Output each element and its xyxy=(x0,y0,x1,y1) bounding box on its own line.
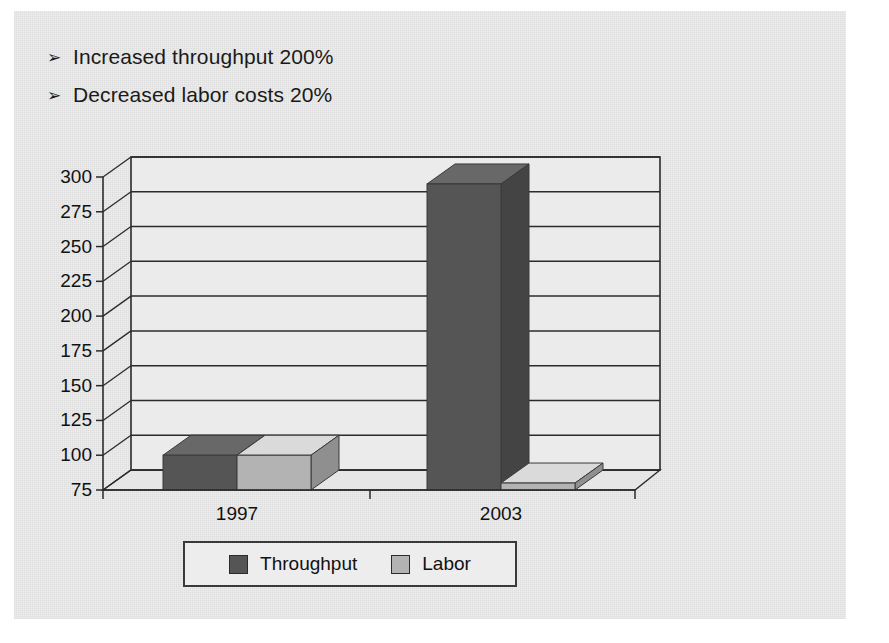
x-axis-tick-label: 1997 xyxy=(216,503,258,525)
legend-item-throughput: Throughput xyxy=(229,553,357,575)
y-axis-tick-label: 75 xyxy=(28,479,92,501)
x-axis-tick-label: 2003 xyxy=(480,503,522,525)
y-axis-tick-label: 300 xyxy=(28,166,92,188)
y-axis-tick-label: 125 xyxy=(28,409,92,431)
legend-swatch-labor xyxy=(391,555,410,574)
y-axis-tick-label: 225 xyxy=(28,270,92,292)
plot-area xyxy=(96,157,660,490)
legend-item-labor: Labor xyxy=(391,553,471,575)
y-axis-tick-label: 150 xyxy=(28,375,92,397)
slide-canvas: ➢ Increased throughput 200% ➢ Decreased … xyxy=(0,0,889,643)
y-axis-tick-label: 250 xyxy=(28,236,92,258)
legend-label-labor: Labor xyxy=(422,553,471,575)
legend-label-throughput: Throughput xyxy=(260,553,357,575)
y-axis-tick-label: 175 xyxy=(28,340,92,362)
chart-legend: Throughput Labor xyxy=(183,541,517,587)
y-axis-tick-label: 275 xyxy=(28,201,92,223)
axis-layer xyxy=(103,490,635,499)
legend-swatch-throughput xyxy=(229,555,248,574)
bar-2003-throughput xyxy=(427,164,529,490)
y-axis-tick-label: 200 xyxy=(28,305,92,327)
y-axis-tick-label: 100 xyxy=(28,444,92,466)
